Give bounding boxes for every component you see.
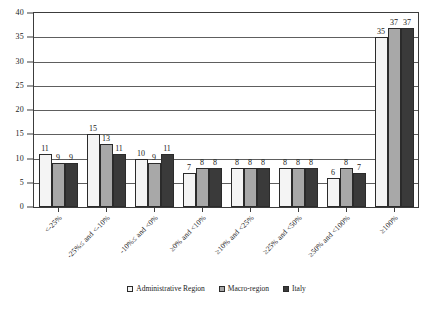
bar-value-label: 9 [152, 154, 156, 162]
y-tick-label: 30 [16, 58, 24, 66]
bar[interactable] [148, 163, 161, 207]
bar-group: 1199 [34, 13, 82, 207]
bar[interactable] [353, 173, 366, 207]
bar-slot: 8 [305, 13, 318, 207]
bar[interactable] [113, 154, 126, 207]
bar[interactable] [87, 134, 100, 207]
bar-value-label: 8 [283, 159, 287, 167]
x-tick-mark [202, 208, 203, 212]
bar[interactable] [375, 37, 388, 207]
bar-slot: 37 [401, 13, 414, 207]
bar-value-label: 7 [357, 164, 361, 172]
bar[interactable] [161, 154, 174, 207]
bar-value-label: 35 [377, 28, 385, 36]
x-tick-slot: <-25% [34, 208, 82, 270]
bar[interactable] [135, 159, 148, 208]
bar-slot: 9 [65, 13, 78, 207]
bar[interactable] [305, 168, 318, 207]
x-tick-slot: ≥10% and <25% [226, 208, 274, 270]
y-axis: 0510152025303540 [0, 12, 30, 208]
bar-slot: 11 [113, 13, 126, 207]
x-tick-label: <-25% [43, 214, 63, 234]
y-tick-label: 5 [20, 179, 24, 187]
bar[interactable] [39, 154, 52, 207]
x-tick-slot: ≥25% and <50% [274, 208, 322, 270]
bar[interactable] [100, 144, 113, 207]
x-tick-slot: ≥50% and <100% [322, 208, 370, 270]
bar-slot: 8 [196, 13, 209, 207]
bar[interactable] [279, 168, 292, 207]
bar-value-label: 11 [41, 145, 49, 153]
y-tick-label: 40 [16, 9, 24, 17]
bar-value-label: 8 [248, 159, 252, 167]
bar-slot: 8 [209, 13, 222, 207]
chart-legend: Administrative RegionMacro-regionItaly [0, 285, 433, 293]
bar-value-label: 8 [235, 159, 239, 167]
bar-slot: 10 [135, 13, 148, 207]
bar[interactable] [244, 168, 257, 207]
bar-value-label: 37 [390, 19, 398, 27]
bar-value-label: 13 [102, 135, 110, 143]
x-tick-mark [58, 208, 59, 212]
x-tick-mark [250, 208, 251, 212]
bar-slot: 15 [87, 13, 100, 207]
bar-group: 788 [178, 13, 226, 207]
bar[interactable] [327, 178, 340, 207]
bar[interactable] [209, 168, 222, 207]
bar-value-label: 7 [187, 164, 191, 172]
x-tick-slot: -10%≤ and <0% [130, 208, 178, 270]
x-tick-mark [106, 208, 107, 212]
legend-item[interactable]: Administrative Region [127, 285, 205, 293]
x-axis: <-25%-25%≤ and <-10%-10%≤ and <0%≥0% and… [34, 208, 418, 270]
bar-slot: 11 [39, 13, 52, 207]
bar-slot: 6 [327, 13, 340, 207]
bar[interactable] [231, 168, 244, 207]
bar[interactable] [292, 168, 305, 207]
bar-value-label: 8 [296, 159, 300, 167]
y-tick-label: 10 [16, 155, 24, 163]
legend-item[interactable]: Macro-region [219, 285, 269, 293]
bar[interactable] [183, 173, 196, 207]
bar-value-label: 8 [344, 159, 348, 167]
legend-swatch-icon [127, 286, 133, 292]
bar-value-label: 8 [200, 159, 204, 167]
x-tick-slot: ≥0% and <10% [178, 208, 226, 270]
x-tick-slot: -25%≤ and <-10% [82, 208, 130, 270]
bar-value-label: 11 [115, 145, 123, 153]
x-tick-mark [298, 208, 299, 212]
bar-value-label: 6 [331, 169, 335, 177]
bar-chart-figure: 0510152025303540 11991513111091178888888… [0, 0, 433, 309]
y-tick-label: 15 [16, 130, 24, 138]
bar[interactable] [196, 168, 209, 207]
bar-value-label: 10 [137, 150, 145, 158]
bar[interactable] [401, 28, 414, 207]
legend-label: Macro-region [228, 285, 269, 293]
bar-group: 687 [322, 13, 370, 207]
bar-value-label: 37 [403, 19, 411, 27]
x-tick-mark [154, 208, 155, 212]
bar-value-label: 8 [309, 159, 313, 167]
x-tick-label: ≥100% [378, 214, 399, 235]
bar-slot: 9 [148, 13, 161, 207]
bar-group: 888 [274, 13, 322, 207]
bar[interactable] [65, 163, 78, 207]
bar-value-label: 8 [213, 159, 217, 167]
x-tick-mark [394, 208, 395, 212]
y-tick-label: 35 [16, 33, 24, 41]
bar[interactable] [340, 168, 353, 207]
bar-group: 151311 [82, 13, 130, 207]
bar-group: 888 [226, 13, 274, 207]
legend-item[interactable]: Italy [283, 285, 306, 293]
bar[interactable] [52, 163, 65, 207]
bar-value-label: 9 [56, 154, 60, 162]
bars-layer: 119915131110911788888888687353737 [34, 13, 418, 207]
bar-slot: 7 [353, 13, 366, 207]
bar-slot: 9 [52, 13, 65, 207]
bar-slot: 7 [183, 13, 196, 207]
bar-slot: 8 [231, 13, 244, 207]
bar-slot: 8 [292, 13, 305, 207]
bar-slot: 8 [257, 13, 270, 207]
bar[interactable] [388, 28, 401, 207]
bar-group: 353737 [370, 13, 418, 207]
bar[interactable] [257, 168, 270, 207]
